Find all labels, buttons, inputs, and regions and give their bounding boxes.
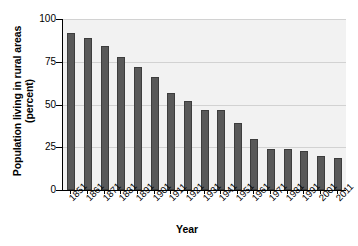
bar xyxy=(117,57,125,190)
x-axis-tick-labels: 1851186118711881189119011911192119311941… xyxy=(62,191,345,225)
bar xyxy=(184,101,192,190)
bar xyxy=(84,38,92,190)
bar xyxy=(201,110,209,190)
bar xyxy=(151,77,159,190)
y-axis-tick-labels: 0255075100 xyxy=(30,0,56,246)
y-tick-label: 50 xyxy=(30,100,56,110)
bar xyxy=(101,46,109,190)
bar-chart: Population living in rural areas (percen… xyxy=(0,0,358,246)
bar xyxy=(217,110,225,190)
y-tick-label: 0 xyxy=(30,185,56,195)
bar xyxy=(167,93,175,190)
y-tick-label: 75 xyxy=(30,57,56,67)
y-tick-label: 25 xyxy=(30,142,56,152)
y-axis-title-line-1: Population living in rural areas xyxy=(11,26,24,176)
bar xyxy=(67,33,75,190)
plot-area xyxy=(62,19,346,191)
bar xyxy=(234,123,242,190)
bar xyxy=(134,67,142,190)
y-tick-label: 100 xyxy=(30,14,56,24)
x-axis-title: Year xyxy=(176,223,198,235)
bars-layer xyxy=(63,19,346,190)
bar xyxy=(250,139,258,190)
